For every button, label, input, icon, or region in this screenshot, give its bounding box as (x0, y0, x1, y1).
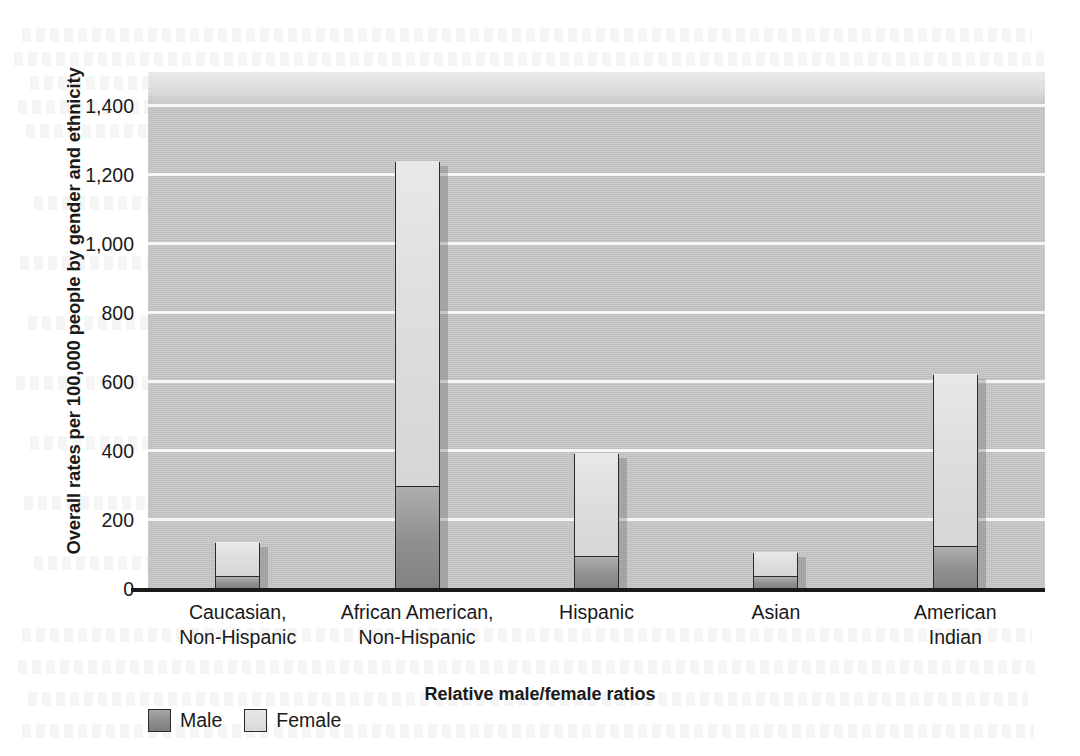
stacked-bar[interactable] (215, 543, 260, 590)
gridline (148, 449, 1045, 452)
legend-label-female: Female (276, 709, 341, 732)
bar-segment-female[interactable] (396, 161, 439, 487)
bar-segment-female[interactable] (216, 542, 259, 577)
legend-swatch-male-icon (148, 709, 171, 732)
stacked-bar[interactable] (574, 454, 619, 590)
x-axis-category-label: American Indian (815, 600, 1080, 650)
legend-swatch-female-icon (244, 709, 267, 732)
y-axis-tick-label: 1,400 (30, 97, 134, 116)
bar-segment-female[interactable] (575, 453, 618, 557)
bar-segment-female[interactable] (754, 552, 797, 577)
bar-group[interactable] (215, 543, 260, 590)
bar-segment-male[interactable] (575, 557, 618, 589)
x-axis-line (131, 588, 1045, 592)
x-axis-title: Relative male/female ratios (0, 684, 1080, 705)
gridline (148, 380, 1045, 383)
y-axis-tick-label: 800 (30, 304, 134, 323)
y-axis-tick-label: 1,200 (30, 166, 134, 185)
legend-item-male[interactable]: Male (148, 709, 222, 732)
chart-legend: Male Female (148, 709, 341, 732)
bar-drop-shadow (798, 557, 806, 590)
plot-area: 02004006008001,0001,2001,400 (148, 72, 1045, 590)
stacked-bar[interactable] (395, 162, 440, 590)
gridline (148, 242, 1045, 245)
y-axis-tick-label: 0 (30, 580, 134, 599)
stacked-bar[interactable] (933, 375, 978, 590)
bar-drop-shadow (440, 166, 448, 590)
bar-chart-figure: Overall rates per 100,000 people by gend… (0, 0, 1080, 756)
y-axis-tick-label: 400 (30, 442, 134, 461)
stacked-bar[interactable] (753, 553, 798, 590)
bar-drop-shadow (260, 547, 268, 590)
gridline (148, 173, 1045, 176)
bar-drop-shadow (619, 458, 627, 590)
y-axis-tick-label: 200 (30, 511, 134, 530)
bar-group[interactable] (753, 553, 798, 590)
bar-group[interactable] (933, 375, 978, 590)
y-axis-tick-label: 600 (30, 373, 134, 392)
legend-label-male: Male (180, 709, 222, 732)
bar-drop-shadow (978, 379, 986, 590)
legend-item-female[interactable]: Female (244, 709, 341, 732)
gridline (148, 104, 1045, 107)
bar-segment-male[interactable] (396, 487, 439, 589)
plot-top-highlight (148, 72, 1045, 106)
bar-segment-female[interactable] (934, 374, 977, 546)
gridline (148, 311, 1045, 314)
y-axis-tick-label: 1,000 (30, 235, 134, 254)
bar-group[interactable] (574, 454, 619, 590)
bar-group[interactable] (395, 162, 440, 590)
bar-segment-male[interactable] (934, 547, 977, 589)
